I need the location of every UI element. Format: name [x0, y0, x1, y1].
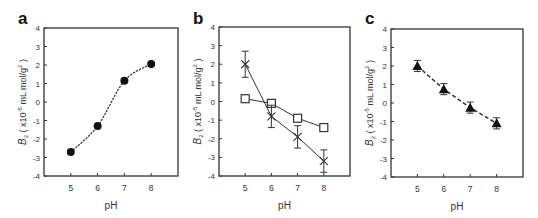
x-tick-label: 7	[122, 183, 127, 193]
figure-canvas: a-4-3-2-1012345678pHB2 ( x10-5 mL mol/g2…	[0, 0, 538, 218]
x-axis-label: pH	[278, 200, 291, 211]
y-tick-label: 0	[383, 99, 388, 108]
y-tick-label: 3	[36, 43, 41, 52]
axes-frame	[391, 29, 523, 177]
y-tick-label: -4	[208, 172, 216, 181]
x-tick-label: 8	[494, 184, 499, 194]
panel-letter: b	[193, 9, 203, 28]
y-tick-label: 2	[211, 60, 216, 69]
x-tick-label: 5	[415, 184, 420, 194]
panel-b: b-4-3-2-1012345678pHB2 ( x10-5 mL mol/g2…	[192, 9, 350, 211]
data-point	[241, 95, 249, 103]
y-tick-label: 2	[383, 62, 388, 71]
y-tick-label: -4	[380, 173, 388, 182]
panel-letter: c	[365, 9, 374, 28]
data-point	[492, 118, 502, 127]
series-circle-filled	[67, 60, 155, 156]
y-tick-label: -2	[208, 135, 216, 144]
x-tick-label: 7	[468, 184, 473, 194]
y-tick-label: -1	[208, 116, 216, 125]
y-tick-label: -3	[380, 155, 388, 164]
y-tick-label: 4	[383, 25, 388, 34]
y-tick-label: 2	[36, 61, 41, 70]
data-point	[465, 103, 475, 112]
series-x	[241, 51, 328, 172]
x-tick-label: 7	[295, 183, 300, 193]
axes-frame	[219, 27, 350, 176]
x-tick-label: 6	[441, 184, 446, 194]
data-point	[294, 114, 302, 122]
y-tick-label: 3	[383, 44, 388, 53]
y-tick-label: 0	[36, 98, 41, 107]
y-tick-label: -1	[33, 117, 41, 126]
data-point	[67, 148, 75, 156]
y-tick-label: 3	[211, 42, 216, 51]
y-axis-label: B2 ( x10-5 mL mol/g2 )	[17, 59, 29, 145]
data-point	[320, 124, 328, 132]
y-tick-label: 0	[211, 98, 216, 107]
y-axis-label: B2 ( x10-5 mL mol/g2 )	[192, 59, 204, 145]
data-point	[94, 122, 102, 130]
x-tick-label: 6	[269, 183, 274, 193]
y-tick-label: -3	[33, 154, 41, 163]
y-tick-label: -1	[380, 118, 388, 127]
data-point	[120, 77, 128, 85]
y-tick-label: -2	[380, 136, 388, 145]
panel-a: a-4-3-2-1012345678pHB2 ( x10-5 mL mol/g2…	[17, 9, 178, 211]
y-tick-label: 4	[36, 24, 41, 33]
data-point	[439, 84, 449, 93]
series-triangle-filled	[412, 60, 501, 128]
data-point	[147, 60, 155, 68]
x-axis-label: pH	[451, 201, 464, 212]
data-point	[412, 61, 422, 70]
y-tick-label: 4	[211, 23, 216, 32]
x-tick-label: 5	[243, 183, 248, 193]
panel-letter: a	[18, 9, 28, 28]
x-tick-label: 8	[321, 183, 326, 193]
y-tick-label: 1	[211, 79, 216, 88]
y-tick-label: 1	[36, 80, 41, 89]
y-tick-label: -3	[208, 153, 216, 162]
x-axis-label: pH	[105, 200, 118, 211]
x-tick-label: 8	[149, 183, 154, 193]
y-axis-label: B2 ( x10-5 mL mol/g2 )	[364, 60, 376, 146]
x-tick-label: 6	[95, 183, 100, 193]
y-tick-label: 1	[383, 81, 388, 90]
x-tick-label: 5	[68, 183, 73, 193]
y-tick-label: -4	[33, 172, 41, 181]
panel-c: c-4-3-2-1012345678pHB2 ( x10-5 mL mol/g2…	[364, 9, 523, 212]
y-tick-label: -2	[33, 135, 41, 144]
